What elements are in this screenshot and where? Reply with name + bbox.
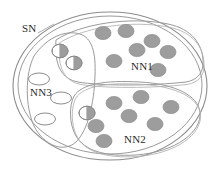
set-diagram-canvas: SN NN1 NN2 NN3 (0, 0, 221, 169)
labeled-sample-dot (106, 96, 122, 109)
labeled-sample-dot (88, 119, 104, 132)
label-nn3: NN3 (30, 86, 52, 98)
set-diagram-container: SN NN1 NN2 NN3 (0, 0, 221, 169)
labeled-sample-dot (106, 54, 122, 67)
partially-labeled-sample-dot (52, 44, 68, 58)
unlabeled-sample-ellipse (29, 73, 50, 85)
labeled-sample-dot (118, 24, 134, 37)
labeled-sample-dot (160, 45, 176, 58)
labeled-sample-dot (133, 90, 149, 103)
labeled-sample-dot (144, 34, 160, 47)
partially-labeled-sample-dot (79, 106, 95, 120)
label-nn2: NN2 (124, 133, 146, 145)
partially-labeled-sample-dot (66, 56, 82, 70)
labeled-sample-dot (96, 134, 112, 147)
labeled-sample-dot (129, 43, 145, 56)
unlabeled-sample-ellipse (35, 113, 56, 125)
labeled-sample-dot (163, 100, 179, 113)
unlabeled-sample-ellipse (51, 92, 72, 104)
label-nn1: NN1 (131, 60, 153, 72)
labeled-sample-dot (147, 117, 163, 130)
label-sn: SN (22, 22, 36, 34)
labeled-sample-dot (121, 109, 137, 122)
labeled-sample-dot (95, 26, 111, 39)
